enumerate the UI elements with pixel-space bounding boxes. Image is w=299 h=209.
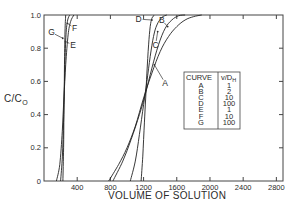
y-tick-label: 0.2 [31,143,41,152]
y-axis-title-sub: O [22,99,28,106]
curve-label-f: F [72,23,77,33]
curve-label-a: A [162,78,168,88]
y-tick-label: 0.4 [31,110,41,119]
x-tick-label: 2800 [268,183,285,192]
breakthrough-curves-chart: 00.20.40.60.81.0 40080012001600200024002… [0,0,299,209]
x-axis-ticks: 40080012001600200024002800 [71,15,285,192]
x-axis-title: VOLUME OF SOLUTION [108,190,226,201]
legend-value: 100 [223,118,236,127]
arrow-head-icon [62,37,64,39]
y-tick-label: 0.6 [31,77,41,86]
curve-label-b: B [159,15,165,25]
arrow-head-icon [65,41,67,43]
legend-curve-g: G [198,118,204,127]
plot-frame [44,15,283,181]
annotation-arrow [143,19,152,20]
y-tick-label: 0 [37,177,41,186]
curve-label-d: D [136,14,142,24]
x-tick-label: 2400 [235,183,252,192]
arrow-head-icon [151,19,153,21]
y-tick-label: 1.0 [31,11,41,20]
curves [56,15,201,181]
y-axis-title-main: C/C [4,93,22,104]
arrow-head-icon [67,22,69,24]
annotation-arrow [55,34,63,38]
legend-header-param-sub: H [232,77,236,83]
x-tick-label: 400 [71,183,84,192]
y-tick-label: 0.8 [31,44,41,53]
legend-table: CURVE v/DH A1B2C10D100E1F10G100 [184,72,240,129]
curve-g [63,15,66,181]
arrow-head-icon [157,31,159,33]
curve-label-g: G [48,27,55,37]
curve-label-e: E [70,40,76,50]
arrow-head-icon [167,26,169,28]
arrow-head-icon [153,64,155,66]
curve-label-c: C [153,40,159,50]
y-axis-title: C/CO [4,93,28,106]
